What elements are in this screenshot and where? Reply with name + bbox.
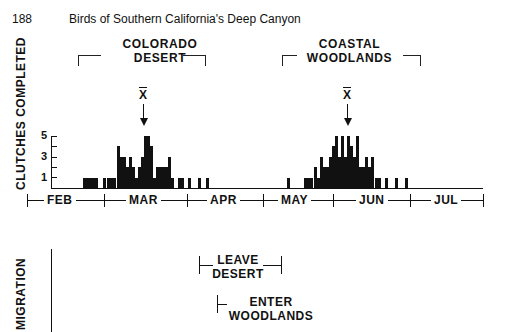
histogram-bar bbox=[395, 178, 398, 188]
month-label-may: MAY bbox=[278, 193, 311, 207]
month-label-apr: APR bbox=[207, 193, 240, 207]
histogram-bar bbox=[171, 178, 174, 188]
month-label-mar: MAR bbox=[126, 193, 161, 207]
histogram-bar bbox=[113, 178, 116, 188]
histogram-bar bbox=[188, 178, 191, 188]
histogram-bar bbox=[405, 178, 408, 188]
month-tick bbox=[483, 194, 484, 207]
leave-desert-label: LEAVE DESERT bbox=[212, 253, 264, 281]
month-label-feb: FEB bbox=[44, 193, 76, 207]
histogram-bar bbox=[310, 178, 313, 188]
month-tick bbox=[333, 194, 334, 207]
migration-axis-line bbox=[51, 249, 52, 332]
enter-woodlands-line2: WOODLANDS bbox=[226, 309, 316, 323]
leave-desert-line1: LEAVE bbox=[212, 253, 264, 267]
enter-woodlands-label: ENTER WOODLANDS bbox=[226, 295, 316, 323]
month-tick bbox=[187, 194, 188, 207]
month-tick bbox=[410, 194, 411, 207]
month-label-jul: JUL bbox=[431, 193, 461, 207]
histogram-bar bbox=[198, 178, 201, 188]
histogram-bar bbox=[181, 178, 184, 188]
leave-desert-line-right bbox=[263, 265, 281, 266]
month-axis-line bbox=[27, 200, 483, 201]
histogram-bar bbox=[385, 178, 388, 188]
histogram-bar bbox=[206, 178, 209, 188]
histogram-bar bbox=[287, 178, 290, 188]
histogram-bar bbox=[371, 157, 374, 188]
month-tick bbox=[263, 194, 264, 207]
histogram-bar bbox=[95, 178, 98, 188]
month-label-jun: JUN bbox=[356, 193, 388, 207]
histogram-bar bbox=[103, 178, 106, 188]
leave-desert-line2: DESERT bbox=[212, 267, 264, 281]
histogram-bar bbox=[378, 178, 381, 188]
enter-woodlands-line1: ENTER bbox=[226, 295, 316, 309]
migration-label: MIGRATION bbox=[14, 258, 28, 330]
month-tick bbox=[104, 194, 105, 207]
month-tick bbox=[27, 194, 28, 207]
histogram-bars bbox=[0, 0, 507, 332]
leave-desert-line-left bbox=[199, 265, 213, 266]
leave-desert-end-tick bbox=[281, 256, 282, 274]
